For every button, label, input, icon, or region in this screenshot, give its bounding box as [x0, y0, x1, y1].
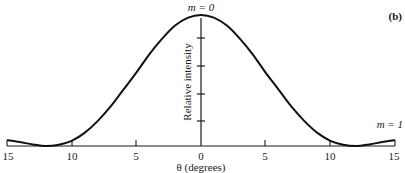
x-tick-label: 15: [3, 150, 15, 162]
x-tick-label: 5: [133, 150, 139, 162]
diffraction-chart: 15 10 5 0 5 10 15 θ (degrees) Relative i…: [0, 0, 405, 173]
x-tick-label: 15: [389, 150, 401, 162]
x-axis-label: θ (degrees): [177, 161, 226, 173]
x-tick-label: 10: [67, 150, 79, 162]
central-max-annotation: m = 0: [188, 1, 215, 13]
x-tick-label: 10: [325, 150, 337, 162]
x-tick-label: 5: [262, 150, 268, 162]
secondary-max-annotation: m = 1: [377, 118, 403, 130]
panel-label: (b): [389, 10, 403, 23]
y-axis-label: Relative intensity: [181, 43, 193, 121]
